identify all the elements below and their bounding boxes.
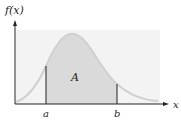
y-axis-arrow-icon	[13, 20, 17, 26]
probability-density-diagram: f(x) x A a b	[0, 0, 181, 126]
bound-a-label: a	[43, 108, 49, 119]
y-axis-label: f(x)	[4, 4, 24, 17]
x-axis-label: x	[173, 99, 179, 110]
area-label: A	[70, 71, 79, 84]
bound-b-label: b	[114, 108, 120, 119]
x-axis-arrow-icon	[163, 102, 169, 106]
